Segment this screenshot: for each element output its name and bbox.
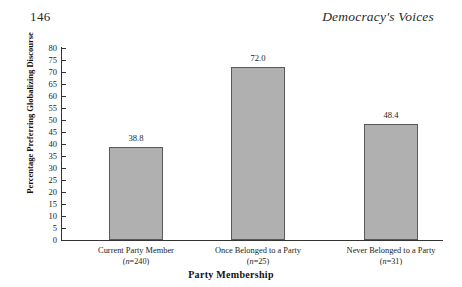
y-axis-tick [62,168,66,169]
y-axis-tick-value: 50 [36,116,57,125]
y-axis-tick-label: 0 [36,236,57,245]
bar-value-label: 38.8 [96,134,176,143]
y-axis-tick [62,108,66,109]
x-axis-line [61,240,443,241]
y-axis-tick-value: 25 [36,176,57,185]
y-axis-tick-value: 45 [36,128,57,137]
y-axis-tick-value: 35 [36,152,57,161]
y-axis-tick [62,72,66,73]
y-axis-tick-value: 10 [36,212,57,221]
y-axis-tick [62,204,66,205]
y-axis-tick-label: 25 [36,176,57,185]
y-axis-tick-value: 40 [36,140,57,149]
y-axis-tick [62,96,66,97]
y-axis-title: Percentage Preferring Globalizing Discou… [25,20,35,206]
y-axis-tick [62,180,66,181]
y-axis-tick-label: 55 [36,104,57,113]
y-axis-tick-label: 35 [36,152,57,161]
category-name: Never Belonged to a Party [347,246,436,255]
y-axis-tick-value: 65 [36,80,57,89]
category-sample-size: (n=31) [325,257,457,268]
y-axis-tick [62,120,66,121]
y-axis-tick [62,84,66,85]
y-axis-tick-label: 15 [36,200,57,209]
y-axis-tick-label: 10 [36,212,57,221]
bar-value-label: 72.0 [218,54,298,63]
bar-chart-figure: Percentage Preferring Globalizing Discou… [0,0,462,287]
y-axis-tick-label: 65 [36,80,57,89]
category-name: Once Belonged to a Party [215,246,301,255]
y-axis-tick-label: 50 [36,116,57,125]
bar [231,67,285,240]
y-axis-tick [62,192,66,193]
bar [109,147,163,240]
x-axis-category-label: Once Belonged to a Party(n=25) [192,246,324,267]
y-axis-tick-label: 5 [36,224,57,233]
y-axis-tick-value: 75 [36,56,57,65]
y-axis-tick-label: 70 [36,68,57,77]
y-axis-tick [62,144,66,145]
y-axis-tick [62,240,66,241]
y-axis-tick-label: 40 [36,140,57,149]
y-axis-tick [62,132,66,133]
y-axis-tick-value: 30 [36,164,57,173]
y-axis-tick [62,60,66,61]
y-axis-tick-value: 0 [36,236,57,245]
x-axis-category-label: Current Party Member(n=240) [70,246,202,267]
y-axis-tick-value: 60 [36,92,57,101]
category-sample-size: (n=25) [192,257,324,268]
y-axis-tick-value: 55 [36,104,57,113]
y-axis-tick [62,228,66,229]
y-axis-tick [62,48,66,49]
y-axis-tick-label: 80 [36,44,57,53]
category-sample-size: (n=240) [70,257,202,268]
y-axis-tick-value: 15 [36,200,57,209]
y-axis-tick-value: 5 [36,224,57,233]
category-name: Current Party Member [98,246,174,255]
y-axis-tick-label: 60 [36,92,57,101]
y-axis-tick [62,156,66,157]
bar-value-label: 48.4 [351,111,431,120]
y-axis-tick-label: 45 [36,128,57,137]
y-axis-tick-label: 20 [36,188,57,197]
x-axis-category-label: Never Belonged to a Party(n=31) [325,246,457,267]
y-axis-tick-value: 80 [36,44,57,53]
y-axis-tick-value: 20 [36,188,57,197]
y-axis-tick-value: 70 [36,68,57,77]
x-axis-title: Party Membership [0,269,462,280]
y-axis-tick [62,216,66,217]
y-axis-tick-label: 30 [36,164,57,173]
bar [364,124,418,240]
y-axis-tick-label: 75 [36,56,57,65]
